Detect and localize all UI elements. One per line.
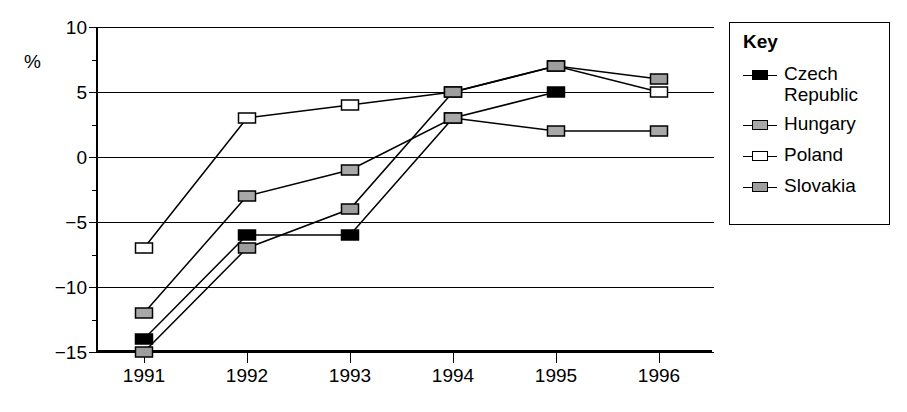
data-point-marker <box>651 87 668 97</box>
series-line <box>144 66 659 248</box>
legend-swatch-icon <box>743 147 777 166</box>
y-axis-tick-label: 0 <box>76 148 87 167</box>
data-point-marker <box>342 230 359 240</box>
y-axis-tick-label: −5 <box>65 213 87 232</box>
x-axis-tick-label: 1994 <box>432 366 474 385</box>
series-line <box>144 118 659 313</box>
y-axis-tick-label: 10 <box>66 18 87 37</box>
series-line <box>144 66 659 352</box>
legend-swatch-icon <box>743 66 777 85</box>
data-point-marker <box>342 165 359 175</box>
x-axis-labels-group: 199119921993199419951996 <box>96 366 712 396</box>
y-axis-tick-label: −10 <box>55 278 87 297</box>
legend: Key Czech RepublicHungaryPolandSlovakia <box>729 22 890 225</box>
x-axis-tick-label: 1995 <box>535 366 577 385</box>
x-axis-tick <box>556 352 557 363</box>
data-point-marker <box>445 87 462 97</box>
data-point-marker <box>239 243 256 253</box>
x-axis-tick-label: 1996 <box>638 366 680 385</box>
data-point-marker <box>342 100 359 110</box>
data-point-marker <box>445 113 462 123</box>
x-axis-ticks-group <box>96 352 712 364</box>
line-chart: % 1050−5−10−15 199119921993199419951996 … <box>0 0 907 412</box>
x-axis-tick <box>453 352 454 363</box>
legend-item[interactable]: Hungary <box>743 114 889 136</box>
legend-swatch-icon <box>743 116 777 135</box>
y-axis-tick-label: 5 <box>76 83 87 102</box>
legend-item-label: Czech Republic <box>784 64 884 105</box>
legend-item[interactable]: Czech Republic <box>743 64 889 105</box>
x-axis-tick <box>247 352 248 363</box>
data-point-marker <box>239 113 256 123</box>
x-axis-tick-label: 1992 <box>226 366 268 385</box>
data-point-marker <box>136 334 153 344</box>
data-point-marker <box>136 243 153 253</box>
y-axis-tick-label: −15 <box>55 343 87 362</box>
data-point-marker <box>651 126 668 136</box>
data-point-marker <box>239 191 256 201</box>
legend-item[interactable]: Slovakia <box>743 176 889 198</box>
legend-title: Key <box>743 32 889 51</box>
data-point-marker <box>548 87 565 97</box>
legend-item-label: Hungary <box>784 114 856 135</box>
legend-items: Czech RepublicHungaryPolandSlovakia <box>743 64 889 198</box>
legend-item[interactable]: Poland <box>743 145 889 167</box>
data-point-marker <box>136 308 153 318</box>
x-axis-tick <box>659 352 660 363</box>
data-point-marker <box>651 74 668 84</box>
x-axis-tick-label: 1993 <box>329 366 371 385</box>
data-point-marker <box>136 347 153 357</box>
data-point-marker <box>548 61 565 71</box>
legend-item-label: Slovakia <box>784 176 856 197</box>
series-line <box>144 92 556 339</box>
data-point-marker <box>239 230 256 240</box>
data-point-marker <box>342 204 359 214</box>
series-group <box>96 27 712 352</box>
legend-item-label: Poland <box>784 145 843 166</box>
legend-swatch-icon <box>743 178 777 197</box>
x-axis-tick-label: 1991 <box>123 366 165 385</box>
data-point-marker <box>548 126 565 136</box>
x-axis-tick <box>350 352 351 363</box>
y-axis-unit-label: % <box>24 52 41 71</box>
